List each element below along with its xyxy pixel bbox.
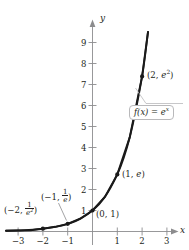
point-label-2-e2: (2, e2) bbox=[147, 71, 173, 80]
point-label-neg2-suffix: ) bbox=[34, 205, 37, 215]
function-callout: f(x) = ex bbox=[129, 105, 174, 120]
point-label-neg1-prefix: (−1, bbox=[41, 192, 62, 202]
leader-line-minus1 bbox=[59, 203, 67, 221]
fraction-denominator: e2 bbox=[25, 209, 33, 216]
y-tick-label-7: 7 bbox=[81, 81, 86, 90]
y-tick-label-9: 9 bbox=[81, 39, 86, 48]
x-tick-label-3: 3 bbox=[164, 237, 169, 246]
fraction-one-over-e-squared: 1e2 bbox=[25, 201, 33, 216]
point-label-neg1: (−1, 1e) bbox=[41, 188, 71, 203]
y-tick-label-5: 5 bbox=[81, 123, 86, 132]
x-axis-label: x bbox=[180, 226, 185, 235]
point-label-2-e2-suffix: ) bbox=[170, 70, 173, 80]
point-label-2-e2-prefix: (2, bbox=[147, 70, 161, 80]
x-axis-arrow-icon bbox=[171, 229, 179, 235]
callout-function-arg: (x) bbox=[137, 107, 148, 117]
y-tick-label-6: 6 bbox=[81, 102, 86, 111]
point-label-1-e-prefix: (1, bbox=[122, 169, 136, 179]
point-two bbox=[140, 74, 144, 78]
y-tick-label-8: 8 bbox=[81, 60, 86, 69]
x-tick-label-neg1: −1 bbox=[62, 237, 75, 246]
x-tick-label-2: 2 bbox=[139, 237, 144, 246]
x-tick-label-neg2: −2 bbox=[37, 237, 50, 246]
y-tick-label-1: 1 bbox=[81, 207, 86, 216]
point-label-0-1: (0, 1) bbox=[96, 210, 119, 219]
point-label-1-e: (1, e) bbox=[122, 170, 145, 179]
y-tick-label-4: 4 bbox=[81, 144, 86, 153]
callout-leader-line bbox=[136, 88, 184, 104]
point-label-neg2: (−2, 1e2) bbox=[4, 201, 37, 216]
point-zero bbox=[90, 208, 94, 212]
exponential-function-graph: y x −3 −2 −1 1 2 3 1 2 3 4 5 6 7 8 9 (2,… bbox=[0, 0, 189, 250]
point-minus2 bbox=[41, 227, 45, 231]
y-tick-label-2: 2 bbox=[81, 186, 86, 195]
point-label-1-e-suffix: ) bbox=[141, 169, 144, 179]
y-axis-arrow-icon bbox=[90, 20, 96, 28]
point-label-neg2-prefix: (−2, bbox=[4, 205, 25, 215]
x-tick-label-neg3: −3 bbox=[12, 237, 25, 246]
y-axis-label: y bbox=[100, 14, 105, 23]
callout-exponent-x: x bbox=[166, 106, 169, 112]
x-tick-label-1: 1 bbox=[115, 237, 120, 246]
y-tick-label-3: 3 bbox=[81, 165, 86, 174]
point-label-neg1-suffix: ) bbox=[68, 192, 71, 202]
callout-equals: = bbox=[148, 107, 160, 117]
point-minus1 bbox=[66, 222, 70, 226]
point-one bbox=[115, 172, 119, 176]
